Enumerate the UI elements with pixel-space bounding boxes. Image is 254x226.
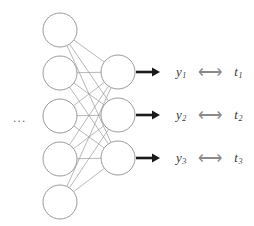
- output-label-1: y1: [176, 64, 186, 80]
- output-arrow-1: [136, 67, 160, 76]
- target-label-3: t3: [234, 150, 242, 166]
- edge-h5-o1: [67, 88, 111, 187]
- output-arrow-group: [136, 67, 160, 162]
- compare-arrow-3-icon: ⟷: [193, 150, 227, 167]
- hidden-node-2: [43, 56, 77, 90]
- comparison-1: y1 ⟷ t1: [176, 60, 242, 84]
- edge-h5-o3: [74, 168, 105, 191]
- output-node-1: [101, 55, 135, 89]
- comparison-3: y3 ⟷ t3: [176, 146, 242, 170]
- comparison-2: y2 ⟷ t2: [176, 103, 242, 127]
- hidden-layer-group: [43, 13, 77, 219]
- compare-arrow-2-icon: ⟷: [193, 107, 227, 124]
- output-label-3: y3: [176, 150, 186, 166]
- output-arrow-2-head: [152, 110, 160, 119]
- target-label-1: t1: [234, 64, 242, 80]
- output-arrow-3: [136, 153, 160, 162]
- hidden-node-5: [43, 185, 77, 219]
- output-layer-group: [101, 55, 135, 175]
- output-arrow-1-head: [152, 67, 160, 76]
- output-label-2: y2: [176, 107, 186, 123]
- edge-h1-o1: [74, 40, 104, 62]
- output-node-2: [101, 98, 135, 132]
- output-node-3: [101, 141, 135, 175]
- hidden-node-4: [43, 142, 77, 176]
- left-ellipsis: ...: [13, 111, 26, 124]
- output-arrow-3-head: [152, 153, 160, 162]
- diagram-canvas: ... y1 ⟷ t1 y2 ⟷ t2 y3 ⟷ t3: [0, 0, 254, 226]
- hidden-node-3: [43, 99, 77, 133]
- compare-arrow-1-icon: ⟷: [193, 64, 227, 81]
- output-arrow-2: [136, 110, 160, 119]
- hidden-node-1: [43, 13, 77, 47]
- target-label-2: t2: [234, 107, 242, 123]
